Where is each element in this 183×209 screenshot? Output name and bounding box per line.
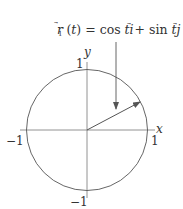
x-tick-negative: −1	[6, 134, 24, 148]
y-tick-negative: −1	[70, 195, 88, 209]
position-vector-arrow	[87, 102, 140, 130]
x-tick-positive: 1	[151, 134, 159, 148]
y-tick-positive: 1	[76, 57, 84, 71]
equation-label: r⃗1 (t) = cos ti⃗ + sin tj⃗	[54, 21, 181, 38]
unit-circle-diagram: r⃗1 (t) = cos ti⃗ + sin tj⃗ y x 1 −1 1 −…	[0, 0, 183, 209]
y-axis-label: y	[83, 45, 91, 59]
